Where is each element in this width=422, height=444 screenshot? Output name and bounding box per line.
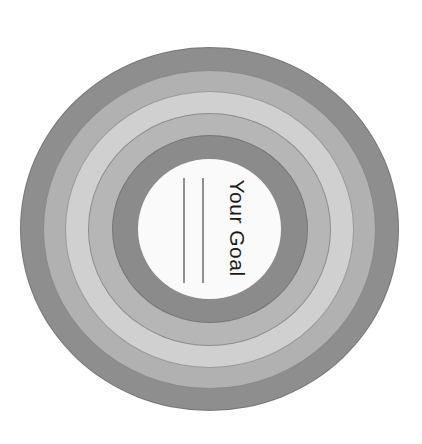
write-in-line-1 — [183, 178, 185, 283]
goal-label: Your Goal — [225, 179, 249, 276]
write-in-line-2 — [202, 178, 204, 283]
goal-center-circle — [138, 159, 281, 299]
